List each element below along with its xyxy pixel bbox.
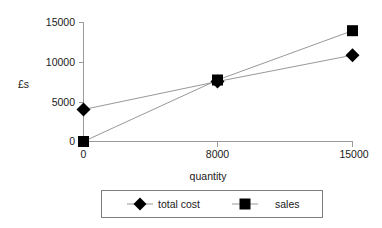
y-axis-title: £s [18, 78, 29, 90]
y-tick-label-15000: 15000 [46, 16, 75, 28]
data-point-total-cost-0 [77, 103, 91, 117]
y-tick-label-0: 0 [69, 135, 75, 147]
data-point-sales-2 [347, 25, 358, 36]
legend-label-total-cost: total cost [158, 198, 200, 210]
data-point-total-cost-2 [346, 48, 360, 62]
legend-label-sales: sales [275, 198, 300, 210]
line-chart: 15000 10000 5000 0 0 8000 15000 £s quant… [0, 0, 382, 228]
y-tick-label-10000: 10000 [46, 56, 75, 68]
x-axis-title: quantity [190, 170, 228, 182]
square-marker-icon [240, 199, 251, 210]
x-tick-label-8000: 8000 [206, 148, 230, 160]
legend: total cost sales [102, 191, 323, 218]
x-tick-label-0: 0 [81, 148, 87, 160]
chart-figure: 15000 10000 5000 0 0 8000 15000 £s quant… [0, 0, 382, 228]
x-tick-label-15000: 15000 [339, 148, 368, 160]
data-point-sales-0 [78, 136, 89, 147]
y-tick-label-5000: 5000 [52, 96, 76, 108]
